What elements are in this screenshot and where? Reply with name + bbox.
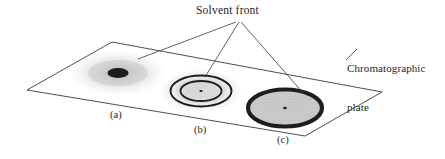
spot-label-b: (b): [194, 124, 206, 136]
spot-a-core: [108, 68, 129, 78]
leader-to-spot-a: [138, 22, 236, 59]
spot-c: [248, 90, 322, 127]
spot-label-c: (c): [277, 134, 289, 146]
spot-b: [160, 70, 242, 112]
spot-b-core: [199, 90, 202, 92]
spot-a: [71, 51, 165, 95]
plate-label-line1: Chromatographic: [347, 62, 425, 75]
spot-label-a: (a): [110, 109, 122, 121]
spot-c-core: [283, 107, 287, 109]
chromatography-figure: Solvent front Chromatographic plate (a) …: [0, 0, 445, 159]
plate-label-line2: plate: [347, 101, 425, 114]
chromatographic-plate-label: Chromatographic plate: [347, 36, 425, 140]
solvent-front-label: Solvent front: [196, 4, 259, 18]
